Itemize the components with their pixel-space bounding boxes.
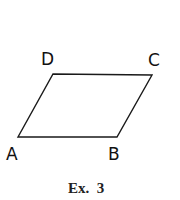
- parallelogram-figure: D C A B Ex. 3: [0, 0, 180, 200]
- parallelogram-abcd: [18, 74, 152, 137]
- vertex-label-b: B: [108, 144, 120, 164]
- vertex-label-d: D: [41, 49, 54, 69]
- figure-caption: Ex. 3: [68, 180, 104, 196]
- diagram-canvas: D C A B Ex. 3: [0, 0, 180, 200]
- vertex-label-a: A: [6, 144, 18, 164]
- vertex-label-c: C: [148, 50, 160, 70]
